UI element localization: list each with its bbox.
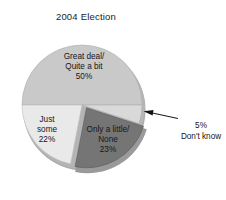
callout-label-dont-know: 5% Don't know bbox=[176, 120, 226, 142]
callout-percent: 5% bbox=[195, 121, 207, 130]
pie-chart-area: Great deal/ Quite a bit 50% Just some 22… bbox=[0, 0, 226, 200]
pie-chart-svg bbox=[0, 0, 226, 200]
pie-slice-great-deal-quite-a-bit bbox=[22, 45, 142, 105]
pie-chart-figure: 2004 Election bbox=[0, 0, 226, 200]
callout-text: Don't know bbox=[181, 132, 221, 141]
callout-leader-line bbox=[144, 110, 179, 119]
